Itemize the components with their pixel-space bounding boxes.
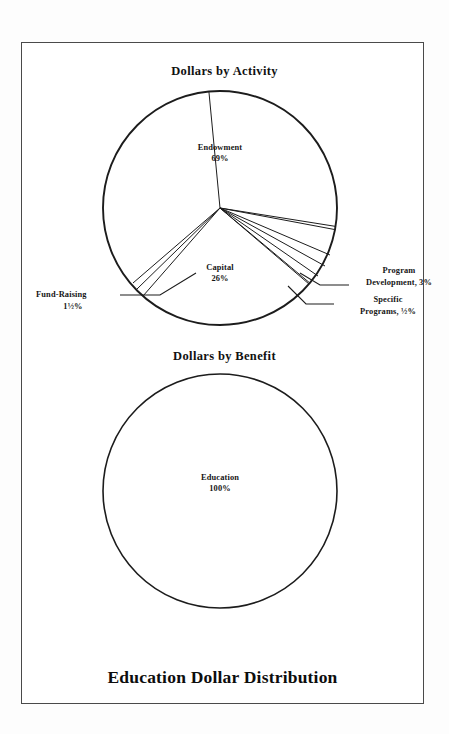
chart-title-dollars-by-activity: Dollars by Activity	[0, 64, 449, 79]
pie-callout-program-development-line1: Program	[352, 265, 446, 277]
pie-label-education: Education 100%	[170, 472, 270, 494]
pie-callout-specific-programs-line2: Programs, ½%	[330, 306, 446, 318]
pie-label-capital-pct: 26%	[170, 273, 270, 284]
pie-callout-fund-raising-name: Fund-Raising	[36, 289, 126, 301]
pie-label-endowment: Endowment 69%	[160, 142, 280, 164]
pie-label-education-pct: 100%	[170, 483, 270, 494]
pie-label-education-name: Education	[201, 473, 239, 482]
pie-callout-specific-programs: Specific Programs, ½%	[330, 294, 446, 317]
pie-label-endowment-name: Endowment	[198, 143, 243, 152]
pie-callout-specific-programs-line1: Specific	[330, 294, 446, 306]
pie-callout-program-development-line2: Development, 3%	[352, 277, 446, 289]
pie-label-endowment-pct: 69%	[160, 153, 280, 164]
pie-callout-fund-raising: Fund-Raising 1½%	[36, 289, 126, 312]
page-title: Education Dollar Distribution	[21, 667, 424, 688]
chart-title-dollars-by-benefit: Dollars by Benefit	[0, 349, 449, 364]
page-root: Dollars by Activity	[0, 0, 449, 734]
pie-label-capital: Capital 26%	[170, 262, 270, 284]
pie-callout-program-development: Program Development, 3%	[352, 265, 446, 288]
pie-callout-fund-raising-pct: 1½%	[36, 301, 126, 313]
pie-label-capital-name: Capital	[206, 263, 234, 272]
